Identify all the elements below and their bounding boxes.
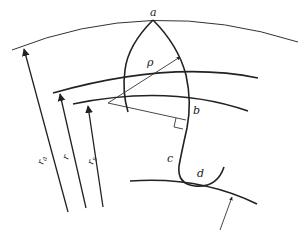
- label-ra: ra: [35, 155, 49, 166]
- ra-radius-arrow: [24, 49, 68, 212]
- label-point-b: b: [193, 104, 200, 117]
- r-radius-arrow: [60, 94, 86, 208]
- label-point-a: a: [150, 6, 157, 19]
- base-circle-arc: [73, 95, 248, 111]
- addendum-circle-arc: [12, 20, 298, 50]
- label-r: r: [60, 153, 71, 160]
- label-rho: ρ: [146, 56, 154, 69]
- label-point-d: d: [197, 167, 204, 180]
- root-circle-pointer-arrow: [220, 197, 232, 230]
- pitch-circle-arc: [53, 72, 258, 93]
- label-point-c: c: [167, 152, 173, 165]
- right-angle-marker: [174, 118, 183, 129]
- root-circle-arc: [130, 180, 257, 204]
- tangent-line-to-b: [108, 103, 186, 120]
- tooth-flank-right: [153, 20, 224, 186]
- gear-tooth-diagram: a ρ b c d ra r rs: [0, 0, 302, 241]
